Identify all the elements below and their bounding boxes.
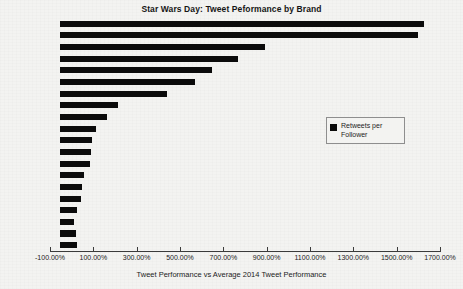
bar — [60, 230, 76, 236]
x-axis-tick — [310, 247, 311, 252]
bar — [60, 91, 167, 97]
x-axis-tick — [50, 247, 51, 252]
x-axis-tick — [180, 247, 181, 252]
x-axis-tick-label: 300.00% — [123, 254, 151, 261]
bar — [60, 242, 77, 248]
x-axis-tick-label: 1500.00% — [381, 254, 413, 261]
chart-legend: Retweets per Follower — [326, 117, 405, 144]
bar — [60, 207, 77, 213]
bar — [60, 137, 92, 143]
x-axis-tick — [93, 247, 94, 252]
bar — [60, 149, 91, 155]
x-axis-title: Tweet Performance vs Average 2014 Tweet … — [0, 270, 463, 279]
legend-swatch-icon — [330, 124, 337, 131]
bar — [60, 79, 195, 85]
chart-title: Star Wars Day: Tweet Peformance by Brand — [0, 4, 463, 14]
bar — [60, 56, 238, 62]
x-axis-tick-label: -100.00% — [35, 254, 65, 261]
x-axis-tick-label: 700.00% — [210, 254, 238, 261]
x-axis-tick — [267, 247, 268, 252]
bar — [60, 161, 90, 167]
x-axis-tick-label: 900.00% — [253, 254, 281, 261]
x-axis-tick — [137, 247, 138, 252]
bar — [60, 114, 107, 120]
bar — [60, 126, 96, 132]
x-axis-tick-label: 1300.00% — [338, 254, 370, 261]
legend-entry-label: Retweets per Follower — [341, 122, 400, 139]
x-axis-line — [50, 251, 441, 252]
bar — [60, 219, 74, 225]
bar — [60, 32, 418, 38]
bar — [60, 196, 81, 202]
x-axis-tick-label: 1700.00% — [424, 254, 456, 261]
bar — [60, 172, 84, 178]
x-axis-tick-label: 1100.00% — [294, 254, 325, 261]
bar — [60, 184, 82, 190]
bar — [60, 21, 424, 27]
bar — [60, 67, 212, 73]
x-axis-tick — [440, 247, 441, 252]
x-axis-tick-label: 500.00% — [166, 254, 194, 261]
x-axis-tick — [397, 247, 398, 252]
x-axis-tick-label: 100.00% — [80, 254, 108, 261]
bar — [60, 102, 118, 108]
x-axis-tick — [223, 247, 224, 252]
x-axis-tick — [353, 247, 354, 252]
bar — [60, 44, 265, 50]
chart-container: Star Wars Day: Tweet Peformance by Brand… — [0, 0, 463, 289]
